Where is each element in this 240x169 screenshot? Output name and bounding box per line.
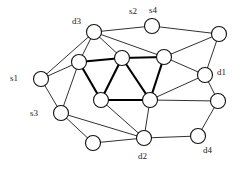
node-bottom-left xyxy=(86,136,101,151)
graph-edge xyxy=(41,32,94,79)
node-d3 xyxy=(87,25,102,40)
graph-edge xyxy=(150,100,218,101)
node-label-s4: s4 xyxy=(149,6,157,15)
graph-edge xyxy=(94,26,152,32)
node-s3 xyxy=(54,106,69,121)
graph-edge xyxy=(94,32,164,57)
graph-edge xyxy=(61,62,79,113)
node-d4 xyxy=(191,129,206,144)
node-label-s3: s3 xyxy=(30,109,38,118)
node-s4 xyxy=(145,19,160,34)
node-center-bottom-left xyxy=(94,93,109,108)
node-d1 xyxy=(198,68,213,83)
node-label-d2: d2 xyxy=(138,152,147,161)
node-label-d4: d4 xyxy=(203,146,212,155)
graph-edge xyxy=(101,100,144,138)
node-label-d1: d1 xyxy=(217,68,226,77)
node-top-right xyxy=(212,27,227,42)
graph-edge xyxy=(144,136,198,138)
node-center-bottom-right xyxy=(143,93,158,108)
graph-edge xyxy=(152,26,219,34)
graph-edge xyxy=(150,75,205,100)
node-center-top-right xyxy=(157,50,172,65)
node-label-s1: s1 xyxy=(10,74,18,83)
graph-edge xyxy=(164,34,219,57)
node-d2 xyxy=(137,131,152,146)
graph-edge xyxy=(61,113,144,138)
nodes-layer xyxy=(34,19,227,151)
edges-layer xyxy=(41,26,219,143)
network-graph-figure: s1s2s3s4d1d2d3d4 xyxy=(0,0,240,169)
graph-canvas xyxy=(0,0,240,169)
node-center-top-left xyxy=(115,51,130,66)
node-s1 xyxy=(34,72,49,87)
node-label-s2: s2 xyxy=(129,7,137,16)
node-right-lower xyxy=(211,94,226,109)
node-upper-mid-left xyxy=(72,55,87,70)
node-label-d3: d3 xyxy=(72,17,81,26)
